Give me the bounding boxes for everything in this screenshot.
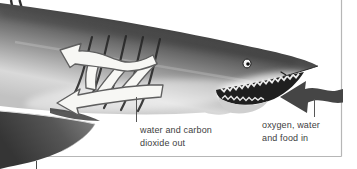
label-food-in-line2: and food in xyxy=(262,132,320,145)
label-food-in: oxygen, water and food in xyxy=(262,119,320,144)
shark-eye xyxy=(243,59,251,68)
label-water-out-line1: water and carbon xyxy=(140,124,212,137)
diagram-canvas: water and carbon dioxide out oxygen, wat… xyxy=(0,0,357,169)
label-food-in-line1: oxygen, water xyxy=(262,119,320,132)
label-water-out-line2: dioxide out xyxy=(140,137,212,150)
label-water-out: water and carbon dioxide out xyxy=(140,124,212,149)
